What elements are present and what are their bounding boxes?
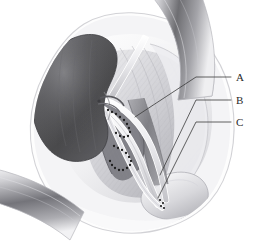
kidney-graft	[31, 34, 117, 161]
label-b: B	[236, 95, 244, 106]
label-a: A	[236, 72, 244, 83]
figure-root: A B C	[0, 0, 259, 252]
label-c: C	[236, 117, 244, 128]
surgical-illustration	[0, 0, 259, 252]
